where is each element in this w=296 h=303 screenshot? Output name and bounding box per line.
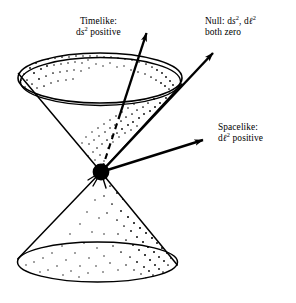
lower-cone [16, 172, 177, 282]
timelike-suffix: positive [88, 27, 121, 37]
null-label: Null: ds2, dℓ2 both zero [205, 16, 256, 37]
null-mid: , d [239, 16, 249, 26]
timelike-label-line1: Timelike: [76, 16, 121, 27]
light-cone-drawing [0, 0, 296, 303]
timelike-label-line2: ds2 positive [76, 27, 121, 38]
spacelike-suffix: positive [230, 133, 263, 143]
spacelike-label-line2: dℓ2 positive [218, 133, 263, 144]
lower-cone-body [16, 172, 177, 282]
null-prefix: Null: d [205, 16, 232, 26]
light-cone-figure: Timelike: ds2 positive Null: ds2, dℓ2 bo… [0, 0, 296, 303]
spacelike-label-line1: Spacelike: [218, 122, 263, 133]
null-label-line1: Null: ds2, dℓ2 [205, 16, 256, 27]
timelike-label: Timelike: ds2 positive [76, 16, 121, 37]
spacelike-label: Spacelike: dℓ2 positive [218, 122, 263, 143]
null-sup-2: 2 [253, 14, 256, 21]
null-label-line2: both zero [205, 27, 256, 38]
vertex-event-dot [93, 164, 110, 181]
